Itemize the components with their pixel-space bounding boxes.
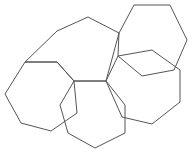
figure-root [0,0,195,154]
diagram-background [0,0,195,154]
heptagon-diagram-canvas [0,0,195,154]
